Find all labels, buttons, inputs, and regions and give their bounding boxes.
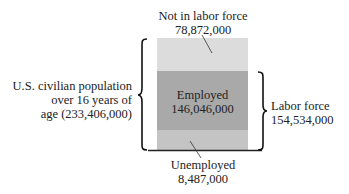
not-in-labor-force-title: Not in labor force — [150, 9, 256, 23]
population-line-2: over 16 years of — [0, 93, 132, 107]
employed-value: 146,046,000 — [157, 102, 248, 116]
employed-title: Employed — [157, 88, 248, 102]
labor-force-title: Labor force — [271, 99, 334, 113]
population-label: U.S. civilian population over 16 years o… — [0, 79, 132, 121]
not-in-labor-force-value: 78,872,000 — [150, 23, 256, 37]
employed-label: Employed 146,046,000 — [157, 88, 248, 116]
unemployed-value: 8,487,000 — [150, 172, 256, 186]
labor-force-value: 154,534,000 — [271, 113, 334, 127]
labor-force-label: Labor force 154,534,000 — [271, 99, 334, 127]
population-line-3: age (233,406,000) — [0, 107, 132, 121]
population-line-1: U.S. civilian population — [0, 79, 132, 93]
unemployed-title: Unemployed — [150, 158, 256, 172]
not-in-labor-force-label: Not in labor force 78,872,000 — [150, 9, 256, 37]
unemployed-label: Unemployed 8,487,000 — [150, 158, 256, 186]
